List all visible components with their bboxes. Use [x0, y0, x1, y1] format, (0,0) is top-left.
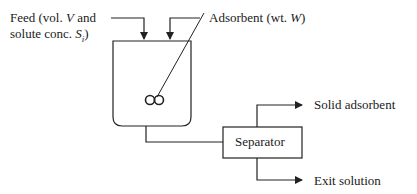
exit-output-line	[257, 158, 302, 180]
tank-outlet-line	[146, 126, 223, 142]
tank	[113, 41, 191, 126]
solid-output-line	[257, 105, 302, 127]
exit-solution-label: Exit solution	[314, 173, 381, 189]
separator-label: Separator	[235, 134, 285, 150]
adsorbent-label-text: Adsorbent (wt.	[209, 10, 290, 25]
solid-adsorbent-label: Solid adsorbent	[314, 97, 395, 113]
feed-label: Feed (vol. V and solute conc. Si)	[10, 10, 96, 47]
feed-label-text: Feed (vol.	[10, 10, 66, 25]
feed-volume-var: V	[66, 10, 74, 25]
feed-label-text: and	[74, 10, 96, 25]
feed-label-text: solute conc.	[10, 26, 75, 41]
impeller-icon	[146, 96, 164, 105]
adsorbent-label: Adsorbent (wt. W)	[209, 10, 305, 26]
agitator-shaft	[157, 13, 204, 97]
adsorbent-label-text: )	[301, 10, 305, 25]
feed-label-text: )	[84, 26, 88, 41]
adsorbent-weight-var: W	[290, 10, 301, 25]
feed-line	[111, 18, 144, 39]
